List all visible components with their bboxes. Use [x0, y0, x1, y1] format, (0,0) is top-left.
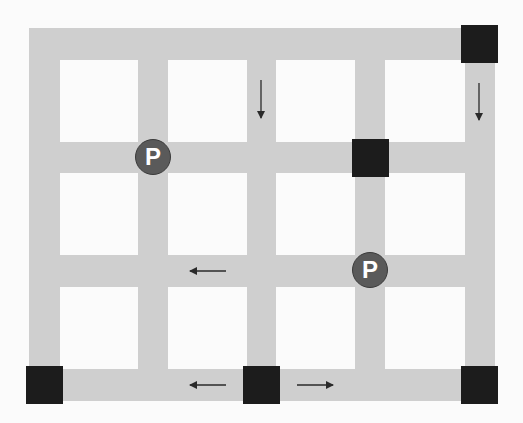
direction-arrows	[0, 0, 523, 423]
parking-label: P	[145, 143, 161, 171]
parking-icon: P	[352, 252, 388, 288]
parking-icon: P	[135, 139, 171, 175]
parking-label: P	[362, 256, 378, 284]
